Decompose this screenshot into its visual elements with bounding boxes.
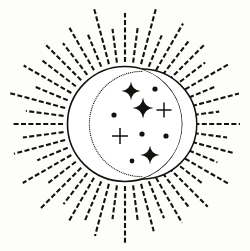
stipple-dot <box>132 72 133 73</box>
stipple-dot <box>109 165 110 166</box>
stipple-dot <box>112 167 113 168</box>
stipple-dot <box>91 108 92 109</box>
stipple-dot <box>92 142 93 143</box>
stipple-dot <box>90 112 91 113</box>
stipple-dot <box>111 166 112 167</box>
stipple-dot <box>114 79 115 80</box>
stipple-dot <box>134 175 135 176</box>
stipple-dot <box>121 172 122 173</box>
stipple-dot <box>99 154 100 155</box>
stipple-dot <box>96 151 97 152</box>
stipple-dot <box>103 87 104 88</box>
stipple-dot <box>100 91 101 92</box>
stipple-dot <box>119 171 120 172</box>
stipple-dot <box>121 75 122 76</box>
stipple-dot <box>108 83 109 84</box>
stipple-dot <box>90 114 91 115</box>
stipple-dot <box>139 71 140 72</box>
stipple-dot <box>89 120 90 121</box>
stipple-dot <box>117 170 118 171</box>
stipple-dot <box>106 84 107 85</box>
stipple-dot <box>101 157 102 158</box>
stipple-dot <box>109 82 110 83</box>
stipple-dot <box>117 77 118 78</box>
stipple-dot <box>126 174 127 175</box>
stipple-dot <box>100 155 101 156</box>
dot-5 <box>130 159 135 164</box>
stipple-dot <box>89 123 90 124</box>
celestial-illustration <box>0 0 250 251</box>
stipple-dot <box>119 76 120 77</box>
stipple-dot <box>91 139 92 140</box>
stipple-dot <box>90 135 91 136</box>
stipple-dot <box>137 71 138 72</box>
stipple-dot <box>132 175 133 176</box>
stipple-dot <box>90 110 91 111</box>
stipple-dot <box>122 74 123 75</box>
stipple-dot <box>92 140 93 141</box>
stipple-dot <box>89 118 90 119</box>
stipple-dot <box>89 129 90 130</box>
dot-2 <box>111 112 116 117</box>
dot-3 <box>139 131 144 136</box>
stipple-dot <box>134 71 135 72</box>
stipple-dot <box>128 174 129 175</box>
stipple-dot <box>95 147 96 148</box>
stipple-dot <box>99 93 100 94</box>
stipple-dot <box>93 144 94 145</box>
stipple-dot <box>130 72 131 73</box>
stipple-dot <box>89 125 90 126</box>
stipple-dot <box>105 161 106 162</box>
stipple-dot <box>94 146 95 147</box>
dot-4 <box>163 133 168 138</box>
stipple-dot <box>130 175 131 176</box>
stipple-dot <box>135 176 136 177</box>
stipple-dot <box>108 164 109 165</box>
stipple-dot <box>124 173 125 174</box>
celestial-svg <box>0 0 250 251</box>
stipple-dot <box>95 149 96 150</box>
stipple-dot <box>141 176 142 177</box>
stipple-dot <box>112 80 113 81</box>
stipple-dot <box>97 152 98 153</box>
stipple-dot <box>122 172 123 173</box>
stipple-dot <box>114 168 115 169</box>
dot-1 <box>152 86 157 91</box>
sun-disc <box>68 67 183 182</box>
stipple-dot <box>105 86 106 87</box>
stipple-dot <box>139 176 140 177</box>
stipple-dot <box>90 133 91 134</box>
stipple-dot <box>89 131 90 132</box>
stipple-dot <box>101 90 102 91</box>
stipple-dot <box>90 137 91 138</box>
stipple-dot <box>137 176 138 177</box>
stipple-dot <box>111 81 112 82</box>
stipple-dot <box>128 73 129 74</box>
stipple-dot <box>116 169 117 170</box>
stipple-dot <box>94 101 95 102</box>
stipple-dot <box>97 94 98 95</box>
stipple-dot <box>92 105 93 106</box>
stipple-dot <box>95 99 96 100</box>
stipple-dot <box>89 116 90 117</box>
stipple-dot <box>102 158 103 159</box>
stipple-dot <box>141 71 142 72</box>
stipple-dot <box>116 78 117 79</box>
stipple-dot <box>102 88 103 89</box>
stipple-dot <box>135 71 136 72</box>
stipple-dot <box>93 103 94 104</box>
stipple-dot <box>96 96 97 97</box>
stipple-dot <box>89 121 90 122</box>
stipple-dot <box>103 160 104 161</box>
stipple-dot <box>95 98 96 99</box>
stipple-dot <box>126 73 127 74</box>
stipple-dot <box>124 74 125 75</box>
stipple-dot <box>89 127 90 128</box>
stipple-dot <box>106 162 107 163</box>
stipple-dot <box>92 106 93 107</box>
